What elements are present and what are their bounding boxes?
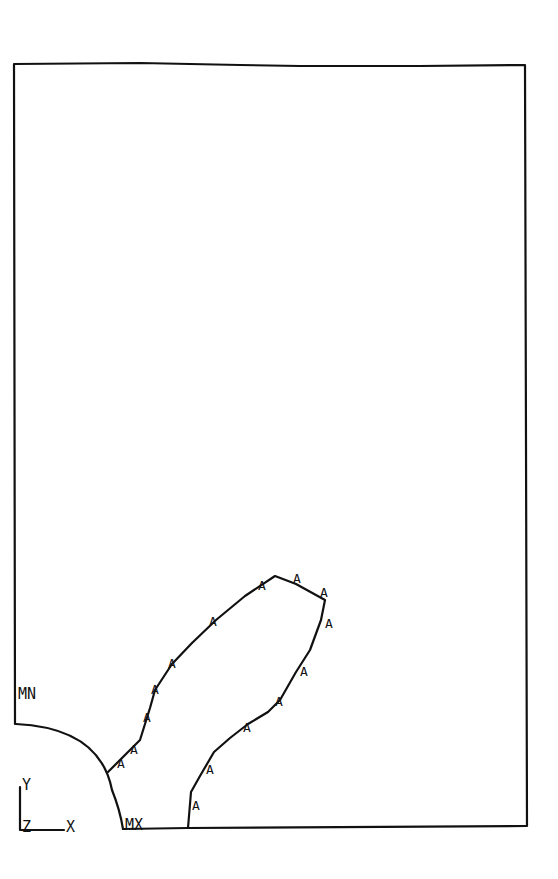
axis-y-label: Y (22, 776, 31, 794)
contour-label: A (243, 720, 251, 735)
contour-label: A (320, 585, 328, 600)
contour-label: A (209, 614, 217, 629)
contour-label: A (130, 742, 138, 757)
contour-label: A (168, 656, 176, 671)
max-label: MX (125, 816, 143, 834)
model-boundary (14, 63, 527, 829)
contour-label: A (300, 664, 308, 679)
hole-arc (16, 724, 123, 829)
min-label: MN (18, 685, 36, 703)
contour-label: A (206, 762, 214, 777)
axis-z-label: Z (22, 818, 31, 836)
contour-label: A (293, 571, 301, 586)
contour-label: A (117, 756, 125, 771)
contour-label: A (275, 694, 283, 709)
contour-label: A (258, 578, 266, 593)
axis-x-label: X (66, 818, 75, 836)
contour-label: A (143, 710, 151, 725)
contour-label: A (325, 616, 333, 631)
contour-label: A (151, 682, 159, 697)
fea-contour-plot: MN MX Y Z X A A A A A A A A A A A A A A … (0, 0, 558, 879)
contour-labels: A A A A A A A A A A A A A A A (117, 571, 333, 813)
contour-label: A (192, 798, 200, 813)
